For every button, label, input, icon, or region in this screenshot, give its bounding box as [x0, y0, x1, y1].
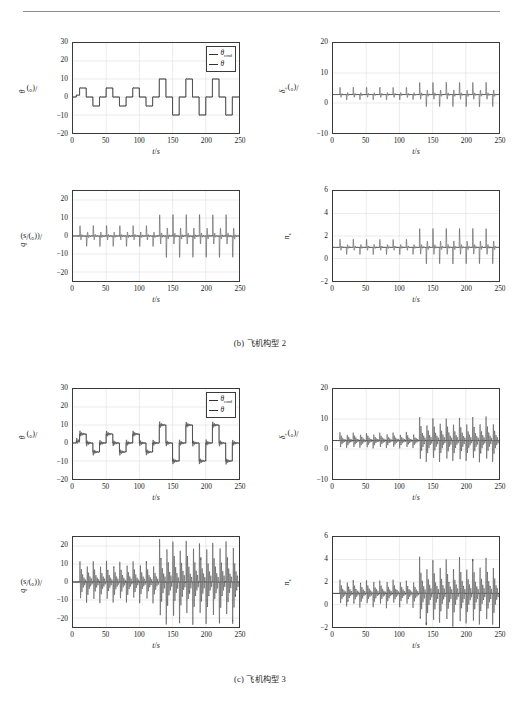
y-tick-labels: −20−1001020 [36, 190, 68, 282]
y-tick-labels: −20−100102030 [36, 42, 68, 134]
y-tick-label: 4 [300, 555, 328, 562]
x-tick-label: 250 [485, 136, 515, 145]
x-axis-title: t/s [332, 641, 500, 650]
legend-item-theta: θ [209, 406, 232, 415]
legend-swatch-icon [209, 54, 218, 55]
chart-canvas-b-nz [333, 191, 499, 281]
panel-c: θ/(°) −20−100102030 θcmd θ 0501001502002… [0, 372, 520, 702]
y-axis-title-q: q/((°)/s) [16, 190, 38, 282]
y-tick-label: −10 [40, 251, 68, 258]
y-tick-label: 0 [300, 255, 328, 262]
y-tick-labels: −20−100102030 [36, 388, 68, 480]
x-tick-label: 150 [418, 136, 448, 145]
header-rule [23, 11, 500, 12]
x-tick-label: 250 [225, 482, 255, 491]
caption-prefix: (c) [234, 674, 244, 684]
x-tick-label: 0 [317, 630, 347, 639]
axes-box [332, 388, 500, 480]
y-tick-label: −10 [40, 458, 68, 465]
x-tick-label: 200 [191, 284, 221, 293]
x-tick-label: 200 [451, 630, 481, 639]
x-tick-label: 150 [418, 284, 448, 293]
x-tick-label: 50 [91, 482, 121, 491]
x-tick-label: 50 [91, 284, 121, 293]
caption-number: 3 [282, 674, 287, 684]
x-tick-label: 200 [191, 136, 221, 145]
y-tick-label: 0 [40, 578, 68, 585]
x-tick-label: 100 [124, 136, 154, 145]
y-axis-title-theta: θ/(°) [16, 388, 38, 480]
x-tick-label: 50 [351, 482, 381, 491]
x-tick-label: 50 [351, 630, 381, 639]
x-tick-label: 0 [317, 136, 347, 145]
y-tick-label: 0 [40, 232, 68, 239]
y-tick-label: 10 [300, 69, 328, 76]
y-tick-label: 4 [300, 209, 328, 216]
y-tick-labels: −20−1001020 [36, 536, 68, 628]
chart-canvas-b-deltae [333, 43, 499, 133]
y-tick-label: 10 [40, 75, 68, 82]
y-tick-label: −20 [40, 269, 68, 276]
y-tick-label: 10 [300, 415, 328, 422]
axes-box [72, 536, 240, 628]
y-tick-label: 6 [300, 532, 328, 539]
x-tick-label: 100 [384, 482, 414, 491]
y-tick-label: 10 [40, 560, 68, 567]
x-tick-label: 100 [384, 630, 414, 639]
y-tick-label: 6 [300, 186, 328, 193]
x-tick-label: 250 [225, 630, 255, 639]
y-tick-label: 20 [300, 384, 328, 391]
chart-canvas-c-q [73, 537, 239, 627]
chart-canvas-c-deltae [333, 389, 499, 479]
caption-panel-c: (c) 飞机构型 3 [0, 672, 520, 684]
x-tick-label: 200 [451, 136, 481, 145]
y-tick-labels: −1001020 [296, 42, 328, 134]
caption-panel-b: (b) 飞机构型 2 [0, 336, 520, 348]
chart-canvas-b-q [73, 191, 239, 281]
y-tick-label: 20 [40, 403, 68, 410]
x-tick-label: 200 [191, 482, 221, 491]
x-tick-label: 250 [485, 482, 515, 491]
y-tick-labels: −1001020 [296, 388, 328, 480]
y-axis-title-theta: θ/(°) [16, 42, 38, 134]
panel-b: θ/(°) −20−100102030 θcmd θ 0501001502002… [0, 26, 520, 366]
y-tick-label: 2 [300, 578, 328, 585]
x-tick-label: 200 [451, 482, 481, 491]
y-tick-label: 30 [40, 38, 68, 45]
legend-swatch-icon [209, 400, 218, 401]
x-tick-label: 150 [158, 630, 188, 639]
y-axis-title-deltae: δe/(°) [276, 388, 298, 480]
legend-item-theta: θ [209, 60, 232, 69]
axes-box [332, 190, 500, 282]
x-axis-title: t/s [72, 493, 240, 502]
x-tick-label: 50 [351, 136, 381, 145]
x-axis-title: t/s [332, 295, 500, 304]
x-tick-label: 200 [451, 284, 481, 293]
x-tick-label: 0 [57, 482, 87, 491]
x-tick-label: 50 [91, 136, 121, 145]
x-tick-label: 150 [158, 284, 188, 293]
x-tick-label: 0 [317, 284, 347, 293]
y-tick-label: 0 [300, 100, 328, 107]
axes-box: θcmd θ [72, 42, 240, 134]
x-tick-label: 0 [57, 630, 87, 639]
legend-swatch-icon [209, 64, 218, 65]
x-tick-label: 250 [485, 630, 515, 639]
y-tick-label: −20 [40, 615, 68, 622]
legend-swatch-icon [209, 410, 218, 411]
x-tick-label: 0 [317, 482, 347, 491]
y-tick-label: 30 [40, 384, 68, 391]
y-tick-label: −10 [40, 112, 68, 119]
x-axis-title: t/s [332, 147, 500, 156]
axes-box [332, 536, 500, 628]
y-tick-label: 20 [40, 541, 68, 548]
x-tick-label: 150 [418, 630, 448, 639]
x-tick-label: 100 [384, 284, 414, 293]
x-axis-title: t/s [72, 295, 240, 304]
caption-prefix: (b) [234, 338, 245, 348]
x-tick-label: 250 [225, 284, 255, 293]
y-tick-label: 2 [300, 232, 328, 239]
x-axis-title: t/s [332, 493, 500, 502]
y-tick-label: 20 [40, 195, 68, 202]
caption-number: 2 [282, 338, 287, 348]
